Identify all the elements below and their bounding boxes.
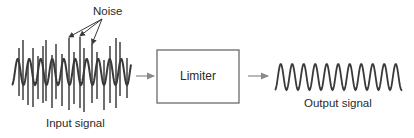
limiter-label: Limiter (157, 70, 239, 82)
input-signal-waveform (12, 59, 131, 85)
noise-label: Noise (93, 6, 122, 18)
noise-pointer-arrow (69, 19, 102, 37)
output-signal-label: Output signal (304, 98, 372, 110)
output-signal-waveform (275, 64, 402, 90)
limiter-diagram: Noise Limiter Input signal Output signal (0, 0, 414, 138)
noise-pointer-arrows (69, 19, 102, 44)
input-signal-label: Input signal (46, 118, 105, 130)
